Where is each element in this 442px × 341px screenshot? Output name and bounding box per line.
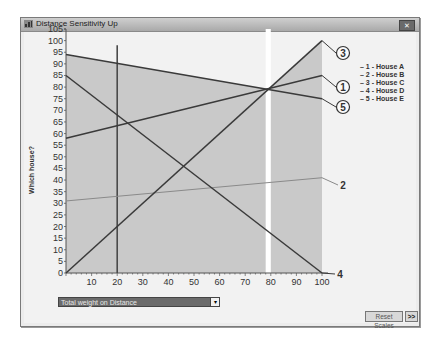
x-tick-label: 10 (87, 277, 97, 287)
series-label: 5 (340, 102, 346, 113)
legend-item: – 2 - House B (360, 71, 404, 79)
y-tick-label: 85 (53, 70, 63, 80)
y-tick-label: 80 (53, 82, 63, 92)
series-label: 4 (337, 269, 343, 280)
series-leader (322, 75, 336, 87)
x-tick-label: 90 (291, 277, 301, 287)
y-tick-label: 35 (53, 187, 63, 197)
x-tick-label: 100 (314, 277, 329, 287)
chevron-down-icon[interactable]: ▾ (210, 298, 219, 306)
series-label: 3 (340, 48, 346, 59)
series-leader (322, 41, 336, 53)
y-tick-label: 15 (53, 233, 63, 243)
dropdown-value: Total weight on Distance (61, 299, 137, 306)
y-tick-label: 40 (53, 175, 63, 185)
weight-criterion-dropdown[interactable]: Total weight on Distance ▾ (58, 297, 220, 307)
y-axis-label: Which house? (28, 146, 35, 194)
y-tick-label: 60 (53, 129, 63, 139)
legend-item: – 4 - House D (360, 87, 404, 95)
series-label: 1 (340, 82, 346, 93)
crossover-gap (266, 29, 271, 273)
series-leader (322, 178, 338, 185)
x-tick-label: 30 (138, 277, 148, 287)
y-tick-label: 55 (53, 140, 63, 150)
y-tick-label: 70 (53, 105, 63, 115)
sensitivity-chart: 0510152025303540455055606570758085909510… (0, 0, 442, 341)
x-tick-label: 40 (163, 277, 173, 287)
x-tick-label: 70 (240, 277, 250, 287)
y-tick-label: 30 (53, 198, 63, 208)
y-tick-label: 20 (53, 222, 63, 232)
y-tick-label: 10 (53, 245, 63, 255)
reset-scales-button[interactable]: Reset Scales (365, 311, 403, 322)
y-tick-label: 90 (53, 59, 63, 69)
y-tick-label: 45 (53, 163, 63, 173)
y-tick-label: 0 (58, 268, 63, 278)
y-tick-label: 75 (53, 94, 63, 104)
legend-item: – 3 - House C (360, 79, 404, 87)
y-tick-label: 50 (53, 152, 63, 162)
series-leader (322, 273, 335, 274)
series-label: 2 (340, 180, 346, 191)
legend: – 1 - House A– 2 - House B– 3 - House C–… (360, 63, 404, 103)
y-tick-label: 100 (48, 36, 63, 46)
x-tick-label: 50 (189, 277, 199, 287)
y-tick-label: 25 (53, 210, 63, 220)
y-tick-label: 95 (53, 47, 63, 57)
x-tick-label: 80 (266, 277, 276, 287)
more-button[interactable]: >> (405, 311, 418, 322)
y-tick-label: 5 (58, 256, 63, 266)
x-tick-label: 60 (215, 277, 225, 287)
y-tick-label: 65 (53, 117, 63, 127)
series-leader (322, 99, 336, 107)
x-tick-label: 20 (112, 277, 122, 287)
legend-item: – 5 - House E (360, 95, 404, 103)
legend-item: – 1 - House A (360, 63, 404, 71)
y-tick-label: 105 (48, 24, 63, 34)
